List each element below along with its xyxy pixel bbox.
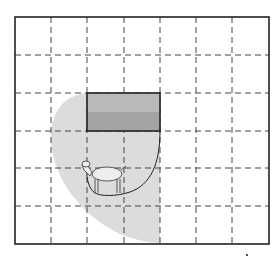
shed [87, 93, 160, 131]
stray-mark [246, 254, 248, 256]
goat-grazing-diagram [0, 0, 279, 257]
